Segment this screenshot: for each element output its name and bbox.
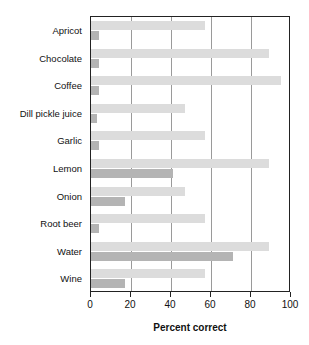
x-axis-title: Percent correct <box>90 322 290 333</box>
bar-light <box>91 21 205 30</box>
x-tick-mark <box>250 292 251 297</box>
bar-chart-figure: ApricotChocolateCoffeeDill pickle juiceG… <box>0 0 309 345</box>
bar-dark <box>91 86 99 95</box>
bar-dark <box>91 197 125 206</box>
bar-light <box>91 131 205 140</box>
category-label: Wine <box>60 273 82 284</box>
bar-dark <box>91 31 99 40</box>
x-tick-label: 20 <box>124 299 135 310</box>
category-label: Root beer <box>40 218 82 229</box>
x-tick-label: 80 <box>244 299 255 310</box>
x-tick-label: 0 <box>87 299 93 310</box>
category-label: Onion <box>57 190 82 201</box>
category-label: Lemon <box>53 163 82 174</box>
bar-dark <box>91 224 99 233</box>
category-label: Garlic <box>57 135 82 146</box>
category-label: Apricot <box>52 25 82 36</box>
bar-light <box>91 187 185 196</box>
x-tick-label: 60 <box>204 299 215 310</box>
bar-light <box>91 269 205 278</box>
bar-dark <box>91 114 97 123</box>
x-tick-mark <box>170 292 171 297</box>
x-tick-label: 100 <box>282 299 299 310</box>
category-label: Dill pickle juice <box>20 107 82 118</box>
category-axis-labels: ApricotChocolateCoffeeDill pickle juiceG… <box>0 16 86 292</box>
bar-light <box>91 159 269 168</box>
bar-light <box>91 76 281 85</box>
plot-inner <box>91 17 289 291</box>
bar-dark <box>91 141 99 150</box>
category-label: Coffee <box>54 80 82 91</box>
bar-light <box>91 214 205 223</box>
category-label: Chocolate <box>39 52 82 63</box>
x-tick-label: 40 <box>164 299 175 310</box>
bar-dark <box>91 169 173 178</box>
bar-dark <box>91 59 99 68</box>
x-tick-mark <box>130 292 131 297</box>
plot-area <box>90 16 290 292</box>
bar-dark <box>91 279 125 288</box>
x-tick-mark <box>90 292 91 297</box>
bar-dark <box>91 252 233 261</box>
x-tick-mark <box>210 292 211 297</box>
bar-light <box>91 104 185 113</box>
category-label: Water <box>57 245 82 256</box>
bar-light <box>91 242 269 251</box>
bar-light <box>91 49 269 58</box>
x-tick-mark <box>290 292 291 297</box>
